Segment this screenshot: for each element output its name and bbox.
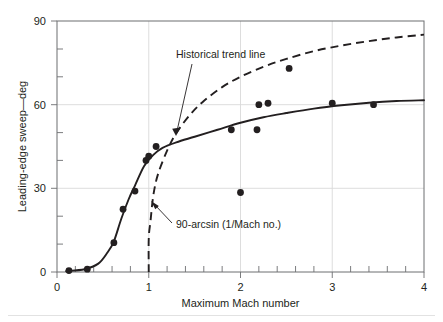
x-tick-label-2: 2 <box>237 281 243 293</box>
x-tick-label-3: 3 <box>329 281 335 293</box>
y-tick-label-30: 30 <box>34 182 46 194</box>
data-point <box>370 101 377 108</box>
data-point <box>110 239 117 246</box>
data-point <box>228 126 235 133</box>
data-point-markers <box>66 65 377 274</box>
data-point <box>237 189 244 196</box>
data-point <box>153 143 160 150</box>
historical-trend-arrowhead <box>172 128 180 136</box>
data-point <box>329 100 336 107</box>
data-point <box>265 100 272 107</box>
data-point <box>84 266 91 273</box>
y-axis-title: Leading-edge sweep—deg <box>16 81 28 213</box>
data-point <box>66 267 73 274</box>
x-tick-label-0: 0 <box>54 281 60 293</box>
scatter-plot: 0 30 60 90 0 1 2 3 4 Maximum Mach number… <box>0 0 443 322</box>
y-tick-label-90: 90 <box>34 15 46 27</box>
historical-trend-curve <box>66 100 424 271</box>
x-axis-title: Maximum Mach number <box>182 297 300 309</box>
data-point <box>145 153 152 160</box>
footer-divider <box>8 315 435 316</box>
chart-figure: 0 30 60 90 0 1 2 3 4 Maximum Mach number… <box>0 0 443 322</box>
y-axis-major-ticks <box>51 21 57 272</box>
data-point <box>255 101 262 108</box>
y-tick-label-60: 60 <box>34 99 46 111</box>
data-point <box>120 206 127 213</box>
data-point <box>286 65 293 72</box>
annotation-arcsin: 90-arcsin (1/Mach no.) <box>151 201 281 230</box>
x-axis-major-ticks <box>57 272 424 278</box>
annotation-historical-trend: Historical trend line <box>172 48 265 136</box>
x-tick-label-1: 1 <box>146 281 152 293</box>
arcsin-formula-label: 90-arcsin (1/Mach no.) <box>176 218 281 230</box>
y-axis-minor-ticks <box>57 49 63 244</box>
data-point <box>254 126 261 133</box>
y-tick-label-0: 0 <box>40 266 46 278</box>
data-point <box>132 188 139 195</box>
x-tick-label-4: 4 <box>421 281 427 293</box>
historical-trend-line-label: Historical trend line <box>176 48 265 60</box>
